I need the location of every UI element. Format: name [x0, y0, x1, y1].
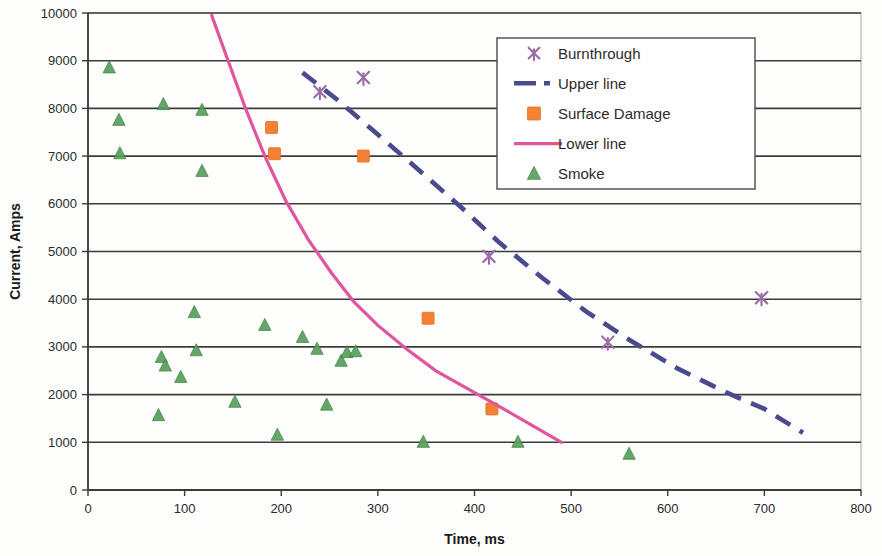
- y-axis-title: Current, Amps: [7, 203, 23, 300]
- marker-x-star: [483, 251, 495, 264]
- y-tick-label: 5000: [48, 244, 77, 259]
- marker-triangle: [512, 435, 524, 447]
- legend-label: Burnthrough: [558, 45, 641, 62]
- x-tick-label: 100: [174, 501, 196, 516]
- y-tick-label: 6000: [48, 196, 77, 211]
- marker-triangle: [196, 164, 208, 176]
- y-tick-label: 0: [70, 483, 77, 498]
- marker-triangle: [623, 447, 635, 459]
- marker-triangle: [157, 98, 169, 110]
- marker-triangle: [175, 370, 187, 382]
- marker-square: [422, 312, 434, 324]
- y-tick-label: 8000: [48, 101, 77, 116]
- x-tick-label: 300: [367, 501, 389, 516]
- x-tick-label: 800: [850, 501, 872, 516]
- marker-x-star: [602, 336, 614, 349]
- legend-label: Surface Damage: [558, 105, 671, 122]
- x-tick-label: 0: [84, 501, 91, 516]
- marker-triangle: [114, 147, 126, 159]
- marker-triangle: [259, 318, 271, 330]
- y-tick-label: 2000: [48, 387, 77, 402]
- marker-triangle: [321, 398, 333, 410]
- x-tick-label: 500: [560, 501, 582, 516]
- y-tick-label: 7000: [48, 149, 77, 164]
- marker-x-star: [314, 86, 326, 99]
- legend-label: Upper line: [558, 75, 626, 92]
- legend-label: Lower line: [558, 135, 626, 152]
- x-tick-label: 400: [464, 501, 486, 516]
- chart-container: 0100020003000400050006000700080009000100…: [0, 0, 882, 556]
- chart-legend: BurnthroughUpper lineSurface DamageLower…: [497, 38, 755, 189]
- x-axis-title: Time, ms: [444, 531, 505, 547]
- y-tick-label: 3000: [48, 339, 77, 354]
- marker-triangle: [188, 306, 200, 318]
- axis-titles: Time, msCurrent, Amps: [7, 203, 505, 547]
- marker-square: [268, 148, 280, 160]
- x-tick-label: 200: [270, 501, 292, 516]
- marker-triangle: [113, 113, 125, 125]
- marker-triangle: [229, 395, 241, 407]
- y-tick-label: 10000: [41, 6, 77, 21]
- marker-triangle: [311, 342, 323, 354]
- x-tick-label: 700: [754, 501, 776, 516]
- series-surface-damage: [266, 121, 498, 414]
- marker-square: [357, 150, 369, 162]
- x-tick-label: 600: [657, 501, 679, 516]
- marker-square: [528, 107, 541, 120]
- marker-x-star: [358, 72, 370, 85]
- marker-triangle: [190, 344, 202, 356]
- marker-triangle: [152, 409, 164, 421]
- marker-square: [266, 121, 278, 133]
- y-tick-label: 4000: [48, 292, 77, 307]
- legend-label: Smoke: [558, 165, 605, 182]
- marker-triangle: [103, 61, 115, 73]
- chart-canvas: 0100020003000400050006000700080009000100…: [0, 0, 882, 556]
- marker-triangle: [271, 428, 283, 440]
- y-tick-label: 9000: [48, 53, 77, 68]
- marker-triangle: [296, 330, 308, 342]
- y-tick-label: 1000: [48, 435, 77, 450]
- marker-triangle: [417, 435, 429, 447]
- marker-triangle: [196, 103, 208, 115]
